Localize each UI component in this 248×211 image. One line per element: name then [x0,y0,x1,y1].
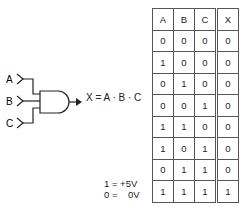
cell: 0 [174,138,195,160]
table-row: 0100 [153,73,239,95]
cell: 1 [195,95,217,117]
cell: 0 [217,52,239,74]
cell: 0 [195,30,217,52]
cell: 0 [217,116,239,138]
cell: 0 [195,116,217,138]
output-arrow-icon [76,98,82,106]
and-gate-diagram: A B C [0,60,90,140]
cell: 0 [217,95,239,117]
table-row: 1111 [153,181,239,203]
cell: 0 [174,30,195,52]
cell: 1 [217,181,239,203]
cell: 0 [153,73,174,95]
svg-text:C: C [6,118,13,129]
cell: 0 [195,52,217,74]
table-row: 0000 [153,30,239,52]
cell: 1 [195,138,217,160]
cell: 1 [153,181,174,203]
cell: 0 [153,30,174,52]
and-gate-body [40,91,69,113]
cell: 0 [217,30,239,52]
input-a-arrow-icon [17,74,23,84]
cell: 0 [153,95,174,117]
truth-table: A B C X 0000 1000 0100 0010 1100 1010 01… [152,8,239,203]
table-row: 1010 [153,138,239,160]
cell: 1 [174,159,195,181]
cell: 1 [174,181,195,203]
cell: 1 [195,181,217,203]
table-row: 1000 [153,52,239,74]
voltage-legend: 1 = +5V 0 = 0V [104,178,140,200]
cell: 1 [153,116,174,138]
cell: 1 [153,52,174,74]
input-c-arrow-icon [17,118,23,128]
legend-line-1: 1 = +5V [104,178,140,189]
cell: 0 [174,95,195,117]
cell: 0 [217,73,239,95]
header-x: X [217,9,239,31]
cell: 1 [174,73,195,95]
cell: 1 [153,138,174,160]
cell: 1 [174,116,195,138]
cell: 1 [195,159,217,181]
table-row: 0110 [153,159,239,181]
header-c: C [195,9,217,31]
cell: 0 [195,73,217,95]
cell: 0 [217,159,239,181]
input-b-arrow-icon [17,96,23,106]
table-header-row: A B C X [153,9,239,31]
svg-text:A: A [6,74,13,85]
cell: 0 [217,138,239,160]
cell: 0 [174,52,195,74]
svg-text:B: B [6,96,13,107]
cell: 0 [153,159,174,181]
header-b: B [174,9,195,31]
legend-line-2: 0 = 0V [104,189,140,200]
output-expression: X = A · B · C [86,92,141,103]
table-row: 1100 [153,116,239,138]
table-row: 0010 [153,95,239,117]
header-a: A [153,9,174,31]
